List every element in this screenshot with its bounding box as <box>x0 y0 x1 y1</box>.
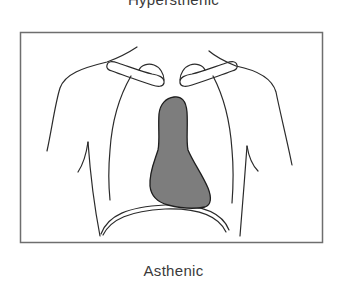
bottom-caption: Asthenic <box>0 262 347 279</box>
left-flank-line <box>88 142 100 236</box>
right-rib-line <box>213 76 233 203</box>
right-lateral-line <box>247 146 258 171</box>
left-lateral-line <box>78 142 88 172</box>
heart-silhouette <box>150 97 211 208</box>
right-clavicle-head <box>180 64 205 80</box>
right-flank-line <box>240 146 247 236</box>
left-rib-line <box>109 76 131 200</box>
chest-diagram <box>0 0 347 283</box>
left-clavicle-head <box>139 64 164 80</box>
left-shoulder-outline <box>47 47 137 151</box>
right-shoulder-outline <box>209 51 292 165</box>
